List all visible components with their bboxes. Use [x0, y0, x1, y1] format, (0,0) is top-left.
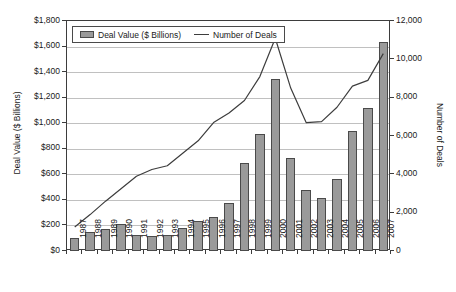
x-axis-tick-label-1991: 1991	[139, 219, 149, 255]
y-axis-left-tick-label: $1,000	[34, 118, 60, 127]
x-axis-tick-label-2003: 2003	[325, 219, 335, 255]
y-axis-left-tick-label: $1,600	[34, 41, 60, 50]
y-axis-right-tick-mark	[390, 135, 394, 136]
x-axis-tick-label-1996: 1996	[217, 219, 227, 255]
y-axis-right-tick-label: 4,000	[396, 169, 417, 178]
y-axis-right-tick-label: 12,000	[396, 16, 422, 25]
x-axis-tick-label-2004: 2004	[340, 219, 350, 255]
y-axis-left-tick-mark	[62, 97, 66, 98]
x-axis-tick-label-1997: 1997	[232, 219, 242, 255]
x-axis-tick-label-1993: 1993	[170, 219, 180, 255]
x-axis-tick-label-1988: 1988	[93, 219, 103, 255]
chart-legend: Deal Value ($ Billions) Number of Deals	[72, 26, 285, 43]
x-axis-tick-label-1990: 1990	[124, 219, 134, 255]
y-axis-right-tick-mark	[390, 97, 394, 98]
y-axis-left-tick-label: $400	[41, 194, 60, 203]
y-axis-left-tick-mark	[62, 199, 66, 200]
y-axis-right-tick-mark	[390, 58, 394, 59]
line-series-number-of-deals	[67, 21, 391, 251]
y-axis-right-title: Number of Deals	[435, 70, 445, 200]
y-axis-left-tick-mark	[62, 71, 66, 72]
legend-item-number-of-deals: Number of Deals	[194, 30, 277, 40]
x-axis-tick-label-2000: 2000	[278, 219, 288, 255]
x-axis-tick-label-1999: 1999	[263, 219, 273, 255]
y-axis-left-tick-label: $600	[41, 169, 60, 178]
legend-item-deal-value: Deal Value ($ Billions)	[80, 30, 181, 40]
y-axis-left-tick-label: $800	[41, 143, 60, 152]
y-axis-right-tick-label: 0	[396, 246, 401, 255]
x-axis-tick-label-2007: 2007	[386, 219, 396, 255]
x-axis-tick-label-1998: 1998	[247, 219, 257, 255]
x-axis-tick-label-2006: 2006	[371, 219, 381, 255]
legend-label-number-of-deals: Number of Deals	[213, 30, 277, 40]
y-axis-right-tick-mark	[390, 173, 394, 174]
y-axis-left-title: Deal Value ($ Billions)	[12, 68, 22, 198]
y-axis-right-tick-label: 6,000	[396, 131, 417, 140]
y-axis-left-tick-mark	[62, 122, 66, 123]
y-axis-left-tick-mark	[62, 173, 66, 174]
x-axis-tick-label-2005: 2005	[355, 219, 365, 255]
x-axis-tick-label-1987: 1987	[78, 219, 88, 255]
y-axis-left-tick-label: $0	[51, 246, 60, 255]
y-axis-left-tick-mark	[62, 46, 66, 47]
y-axis-left-tick-mark	[62, 224, 66, 225]
y-axis-right-tick-mark	[390, 20, 394, 21]
y-axis-right-tick-label: 8,000	[396, 92, 417, 101]
y-axis-right-tick-label: 2,000	[396, 207, 417, 216]
x-axis-tick-mark	[66, 250, 67, 254]
y-axis-right-tick-mark	[390, 212, 394, 213]
x-axis-tick-label-1992: 1992	[155, 219, 165, 255]
y-axis-left-tick-mark	[62, 148, 66, 149]
plot-area	[66, 20, 390, 250]
y-axis-left-tick-mark	[62, 20, 66, 21]
chart-container: Deal Value ($ Billions) Number of Deals …	[0, 0, 456, 292]
x-axis-tick-label-1989: 1989	[109, 219, 119, 255]
bar-swatch-icon	[80, 31, 94, 38]
y-axis-left-tick-label: $1,800	[34, 16, 60, 25]
x-axis-tick-label-2002: 2002	[309, 219, 319, 255]
x-axis-tick-label-1994: 1994	[186, 219, 196, 255]
x-axis-tick-label-1995: 1995	[201, 219, 211, 255]
line-swatch-icon	[194, 34, 209, 35]
y-axis-left-tick-label: $1,200	[34, 92, 60, 101]
y-axis-left-tick-label: $1,400	[34, 67, 60, 76]
y-axis-right-tick-label: 10,000	[396, 54, 422, 63]
y-axis-left-tick-label: $200	[41, 220, 60, 229]
legend-label-deal-value: Deal Value ($ Billions)	[98, 30, 181, 40]
x-axis-tick-label-2001: 2001	[294, 219, 304, 255]
